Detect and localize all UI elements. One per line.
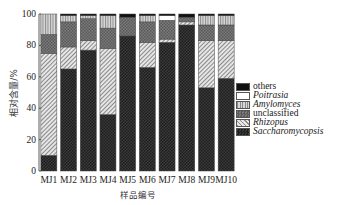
segment-others (120, 14, 136, 17)
segment-unclassified (80, 19, 96, 41)
segment-rhizopus (80, 41, 96, 50)
segment-others (218, 14, 234, 16)
bar-mj8 (179, 14, 195, 171)
segment-saccharomycopsis (120, 36, 136, 171)
segment-others (100, 14, 116, 16)
segment-rhizopus (218, 41, 234, 79)
bar-mj2 (61, 14, 77, 171)
segment-amylomyces (100, 16, 116, 29)
legend-swatch (236, 110, 250, 118)
bar-mj6 (139, 14, 155, 171)
bar-mj5 (120, 14, 136, 171)
bar-mj4 (100, 14, 116, 171)
segment-saccharomycopsis (218, 78, 234, 171)
segment-unclassified (41, 34, 57, 53)
segment-unclassified (159, 20, 175, 39)
segment-amylomyces (41, 14, 57, 34)
segment-amylomyces (218, 16, 234, 25)
bar-mj9 (198, 14, 214, 171)
segment-saccharomycopsis (139, 67, 155, 171)
segment-others (198, 14, 214, 16)
segment-others (80, 14, 96, 16)
x-tick-label: MJ2 (60, 175, 77, 185)
x-tick-label: MJ4 (99, 175, 116, 185)
segment-saccharomycopsis (61, 69, 77, 171)
segment-saccharomycopsis (179, 25, 195, 171)
segment-saccharomycopsis (80, 50, 96, 171)
y-tick-label: 100 (22, 9, 37, 19)
legend-swatch (236, 101, 250, 109)
segment-unclassified (100, 28, 116, 48)
x-tick-label: MJ9 (198, 175, 215, 185)
x-tick-label: MJ5 (119, 175, 136, 185)
x-tick-label: MJ8 (178, 175, 195, 185)
segment-others (61, 14, 77, 16)
legend-swatch (236, 92, 250, 100)
segment-amylomyces (80, 16, 96, 19)
x-tick-label: MJ7 (159, 175, 176, 185)
segment-unclassified (139, 22, 155, 42)
segment-others (139, 14, 155, 16)
legend-label: Saccharomycopsis (253, 127, 323, 136)
segment-unclassified (198, 25, 214, 41)
segment-rhizopus (179, 22, 195, 25)
x-tick-label: MJ6 (139, 175, 156, 185)
segment-rhizopus (41, 53, 57, 155)
segment-saccharomycopsis (159, 42, 175, 171)
x-axis-label: 样品编号 (120, 190, 156, 200)
segment-saccharomycopsis (198, 88, 214, 171)
y-tick-label: 60 (27, 72, 37, 82)
segment-amylomyces (198, 16, 214, 25)
segment-rhizopus (100, 49, 116, 115)
segment-unclassified (179, 17, 195, 22)
segment-rhizopus (198, 41, 214, 88)
segment-saccharomycopsis (41, 155, 57, 171)
segment-others (179, 14, 195, 17)
legend-swatch (236, 128, 250, 136)
segment-rhizopus (159, 39, 175, 42)
segment-unclassified (120, 17, 136, 36)
bar-mj10 (218, 14, 234, 171)
legend-swatch (236, 119, 250, 127)
y-tick-label: 40 (27, 103, 37, 113)
x-tick-label: MJ3 (80, 175, 97, 185)
bars-group (41, 14, 234, 171)
legend: othersPoitrasiaAmylomycesunclassifiedRhi… (236, 82, 323, 136)
y-tick-label: 20 (27, 135, 37, 145)
y-tick-label: 0 (31, 166, 36, 176)
x-tick-label: MJ10 (215, 175, 237, 185)
segment-poitrasia (159, 16, 175, 21)
segment-amylomyces (139, 16, 155, 22)
segment-rhizopus (139, 42, 155, 67)
legend-item-saccharomycopsis: Saccharomycopsis (236, 127, 323, 136)
bar-mj7 (159, 14, 175, 171)
segment-others (159, 14, 175, 16)
segment-saccharomycopsis (100, 114, 116, 171)
segment-rhizopus (61, 47, 77, 69)
legend-swatch (236, 83, 250, 91)
bar-mj1 (41, 14, 57, 171)
segment-unclassified (218, 25, 234, 41)
y-axis-label: 相对含量/% (8, 69, 19, 117)
bar-mj3 (80, 14, 96, 171)
segment-unclassified (61, 22, 77, 47)
x-tick-label: MJ1 (40, 175, 57, 185)
segment-amylomyces (61, 16, 77, 22)
y-tick-label: 80 (27, 40, 37, 50)
